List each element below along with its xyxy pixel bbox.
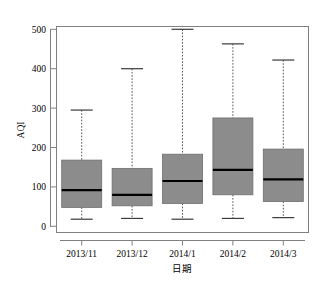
y-tick-label: 500 xyxy=(32,25,47,35)
x-tick-label: 2014/2 xyxy=(220,249,247,259)
x-tick-label: 2013/11 xyxy=(66,249,97,259)
box-rect xyxy=(213,118,253,195)
box-series xyxy=(62,29,304,219)
box-group xyxy=(213,44,253,219)
x-axis-ticks: 2013/112013/122014/12014/22014/3 xyxy=(66,241,296,260)
y-tick-label: 400 xyxy=(32,64,47,74)
y-tick-label: 200 xyxy=(32,143,47,153)
y-tick-label: 100 xyxy=(32,182,47,192)
box-rect xyxy=(263,149,303,201)
y-tick-label: 0 xyxy=(41,222,46,232)
plot-canvas: 0100200300400500 2013/112013/122014/1201… xyxy=(0,0,322,291)
box-rect xyxy=(112,168,152,205)
boxplot-chart: 0100200300400500 2013/112013/122014/1201… xyxy=(0,0,322,291)
y-axis-title: AQI xyxy=(16,122,26,139)
box-group xyxy=(263,60,303,218)
x-tick-label: 2014/3 xyxy=(270,249,297,259)
box-group xyxy=(62,110,102,219)
x-tick-label: 2013/12 xyxy=(117,249,148,259)
box-group xyxy=(112,69,152,219)
box-group xyxy=(163,29,203,219)
x-axis-title: 日期 xyxy=(172,263,192,274)
box-rect xyxy=(62,160,102,207)
x-tick-label: 2014/1 xyxy=(169,249,196,259)
y-axis-ticks: 0100200300400500 xyxy=(32,25,57,232)
y-tick-label: 300 xyxy=(32,104,47,114)
box-rect xyxy=(163,154,203,203)
